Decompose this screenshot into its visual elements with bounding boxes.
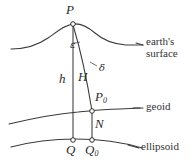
measurement-label-H: H: [78, 70, 87, 84]
point-label-P0: P0: [95, 90, 107, 104]
point-label-Q: Q: [66, 143, 75, 157]
plumb-line: [73, 25, 92, 111]
delta-angle-tick: [90, 62, 97, 66]
ellipsoid-curve: [11, 139, 142, 148]
angle-label-epsilon: ε: [70, 40, 75, 51]
measurement-label-N: N: [95, 117, 104, 131]
geoid-curve: [9, 108, 140, 124]
earth-surface-curve: [11, 24, 143, 49]
surface-label-geoid: geoid: [146, 101, 170, 113]
surface-label-earth-line2: surface: [146, 47, 178, 59]
geodetic-height-diagram: P P0 Q Q0 h H N ε δ earth'ssurface geoid…: [0, 0, 194, 165]
angle-label-delta: δ: [99, 63, 105, 74]
surface-label-ellipsoid: ellipsoid: [141, 141, 179, 153]
measurement-label-h: h: [59, 72, 66, 86]
point-label-Q0-base: Q: [85, 142, 94, 157]
point-label-Q0: Q0: [85, 143, 98, 157]
point-marker-P0: [90, 109, 95, 114]
surface-label-earth-line1: earth's: [146, 35, 174, 47]
point-marker-P: [71, 22, 76, 27]
point-label-P0-base: P: [95, 89, 103, 104]
point-label-P0-subscript: 0: [103, 96, 107, 105]
surface-label-earth-surface: earth'ssurface: [146, 36, 178, 60]
point-label-Q0-subscript: 0: [94, 149, 98, 158]
point-label-P: P: [66, 3, 74, 17]
